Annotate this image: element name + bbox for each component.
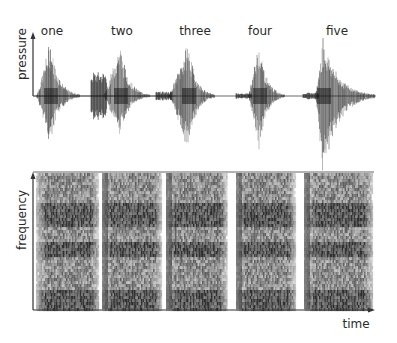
word-label-three: three [179,24,211,38]
frequency-axis-label: frequency [15,190,29,250]
speech-figure: one two three four five pressure frequen… [0,0,397,343]
waveform-four [236,53,285,150]
waveform-five [303,38,375,170]
spectrogram-five [304,173,373,311]
word-label-one: one [41,24,63,38]
word-label-five: five [326,24,348,38]
pressure-axis-arrow-icon [31,32,36,39]
word-label-two: two [111,24,133,38]
pressure-axis-label: pressure [15,28,29,80]
spectrogram-four [236,173,296,311]
waveform-two [91,51,150,134]
waveform-three [156,48,215,143]
frequency-axis-arrow-icon [31,172,36,179]
spectrogram-three [166,173,228,311]
waveform-group [33,38,376,170]
time-axis-label: time [342,317,369,331]
spectrogram-group [36,173,373,311]
word-label-four: four [248,24,272,38]
waveform-one [36,47,80,139]
spectrogram-two [102,173,162,311]
spectrogram-one [36,173,99,311]
